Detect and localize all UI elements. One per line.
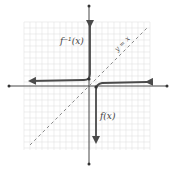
y-axis-top-end-icon (88, 5, 91, 8)
axes (8, 5, 169, 166)
inverse-endpoint-dot-icon (87, 77, 90, 80)
function-endpoint-dot-icon (94, 85, 97, 88)
y-axis-bottom-end-icon (88, 163, 91, 166)
x-axis-left-end-icon (8, 85, 11, 88)
mirror-line-y-equals-x (30, 28, 147, 145)
function-label: f(x) (99, 111, 116, 121)
x-axis-right-end-icon (166, 85, 169, 88)
inverse-function-label: f⁻¹(x) (59, 36, 84, 46)
inverse-function-graph: f⁻¹(x) y = x f(x) (0, 0, 177, 171)
mirror-line-label: y = x (112, 35, 131, 54)
